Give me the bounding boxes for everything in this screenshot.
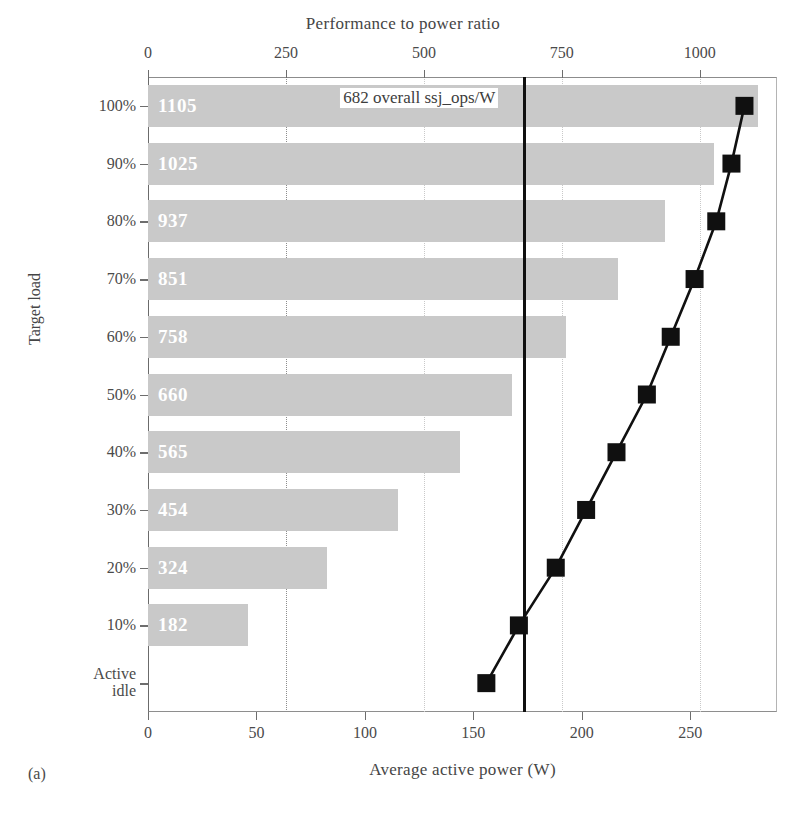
bottom-axis-tick-label: 100 — [353, 724, 377, 742]
top-axis-tick-mark — [424, 70, 425, 78]
bar-value-label: 454 — [158, 499, 188, 521]
y-axis-tick-label: 80% — [36, 213, 136, 230]
panel-label: (a) — [28, 765, 46, 783]
bottom-axis-tick-mark — [365, 712, 366, 720]
top-axis-tick-mark — [148, 70, 149, 78]
y-axis-tick-label: 70% — [36, 271, 136, 288]
bar-value-label: 565 — [158, 441, 188, 463]
bottom-axis-tick-label: 150 — [461, 724, 485, 742]
bar: 937 — [148, 200, 665, 242]
y-axis-tick-label-line: Active — [36, 666, 136, 683]
bottom-axis-tick-label: 50 — [248, 724, 264, 742]
bottom-axis-tick-label: 200 — [570, 724, 594, 742]
y-axis-tick-label: 40% — [36, 444, 136, 461]
figure-panel: Performance to power ratio 1105102593785… — [0, 0, 806, 814]
top-axis-tick-mark — [286, 70, 287, 78]
bar-value-label: 851 — [158, 268, 188, 290]
top-axis-tick-label: 1000 — [684, 44, 716, 62]
bottom-axis-tick-mark — [473, 712, 474, 720]
bar-value-label: 660 — [158, 384, 188, 406]
bar: 851 — [148, 258, 618, 300]
bar: 565 — [148, 431, 460, 473]
y-axis-tick-mark — [140, 279, 148, 281]
y-axis-tick-label: 30% — [36, 502, 136, 519]
bottom-axis-title: Average active power (W) — [148, 760, 777, 780]
y-axis-tick-label: 90% — [36, 155, 136, 172]
bar-value-label: 1105 — [158, 95, 197, 117]
top-axis-tick-label: 0 — [144, 44, 152, 62]
y-axis-tick-mark — [140, 164, 148, 166]
y-axis-tick-mark — [140, 625, 148, 627]
bar: 1025 — [148, 143, 714, 185]
bottom-axis-tick-label: 250 — [678, 724, 702, 742]
top-axis-tick-label: 500 — [412, 44, 436, 62]
top-axis-tick-label: 250 — [274, 44, 298, 62]
y-axis-tick-label: 100% — [36, 97, 136, 114]
bottom-axis-tick-mark — [256, 712, 257, 720]
bar: 758 — [148, 316, 566, 358]
y-axis-tick-mark — [140, 683, 148, 685]
y-axis-tick-mark — [140, 221, 148, 223]
bottom-axis-tick-mark — [690, 712, 691, 720]
bottom-axis-tick-label: 0 — [144, 724, 152, 742]
top-axis-tick-mark — [700, 70, 701, 78]
y-axis-tick-mark — [140, 510, 148, 512]
top-axis-title: Performance to power ratio — [0, 14, 806, 34]
bottom-axis-tick-mark — [148, 712, 149, 720]
y-axis-tick-label: Activeidle — [36, 666, 136, 700]
bar: 182 — [148, 604, 248, 646]
bar-value-label: 937 — [158, 210, 188, 232]
bar: 660 — [148, 374, 512, 416]
y-axis-tick-mark — [140, 568, 148, 570]
y-axis-tick-mark — [140, 337, 148, 339]
reference-line — [523, 77, 526, 712]
y-axis-tick-label: 60% — [36, 328, 136, 345]
y-axis-tick-label-line: idle — [36, 683, 136, 700]
y-axis-tick-mark — [140, 395, 148, 397]
bar-value-label: 182 — [158, 614, 188, 636]
y-axis-tick-mark — [140, 452, 148, 454]
bar-value-label: 324 — [158, 557, 188, 579]
top-axis-tick-mark — [562, 70, 563, 78]
bar-value-label: 1025 — [158, 153, 198, 175]
bar: 454 — [148, 489, 398, 531]
bar-value-label: 758 — [158, 326, 188, 348]
reference-line-label: 682 overall ssj_ops/W — [340, 88, 498, 108]
y-axis-tick-label: 10% — [36, 617, 136, 634]
y-axis-tick-mark — [140, 106, 148, 108]
y-axis-tick-label: 50% — [36, 386, 136, 403]
bar: 324 — [148, 547, 327, 589]
bottom-axis-tick-mark — [582, 712, 583, 720]
top-axis-tick-label: 750 — [550, 44, 574, 62]
y-axis-tick-label: 20% — [36, 559, 136, 576]
y-axis-title: Target load — [26, 229, 44, 389]
